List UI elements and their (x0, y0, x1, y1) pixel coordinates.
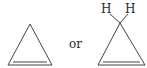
connector-or: or (69, 37, 82, 51)
bond-h-left (110, 14, 120, 23)
bond-left (98, 23, 120, 65)
hydrogen-label-right: H (125, 2, 135, 16)
bond-left (8, 24, 30, 65)
structure-with-hydrogens (98, 14, 145, 65)
hydrogen-label-left: H (101, 2, 111, 16)
bond-right (30, 24, 52, 65)
bond-right (120, 23, 145, 65)
structure-skeletal (8, 24, 52, 65)
cyclopropene-diagram: or H H (0, 0, 147, 68)
